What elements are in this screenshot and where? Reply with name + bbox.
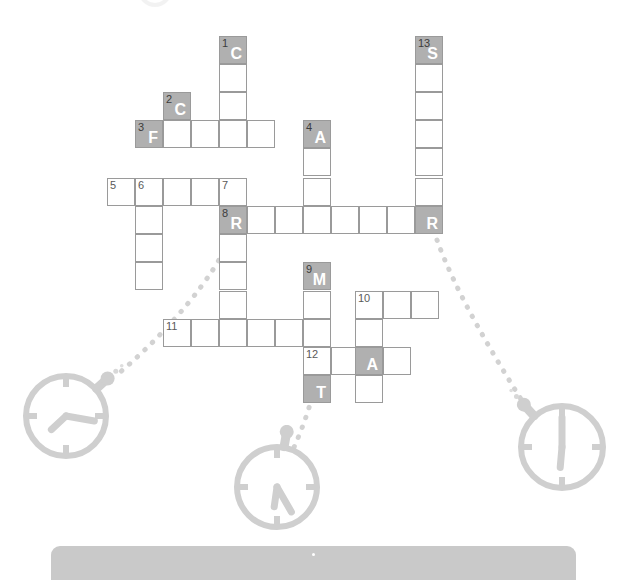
cell-letter: A [366, 356, 378, 373]
stopwatch-icon-center [215, 425, 339, 549]
crossword-cell-c3d[interactable] [219, 120, 247, 148]
crossword-cell-c12t[interactable]: T [303, 375, 331, 403]
cell-number: 5 [110, 179, 116, 191]
cell-number: 13 [418, 37, 430, 49]
cell-letter: R [230, 215, 242, 232]
crossword-cell-c7d[interactable] [219, 291, 247, 319]
cell-letter: T [316, 384, 326, 401]
crossword-cell-c8f[interactable] [359, 206, 387, 234]
crossword-cell-c9b[interactable] [303, 291, 331, 319]
crossword-cell-c5d[interactable] [191, 178, 219, 206]
crossword-cell-c11d[interactable] [247, 319, 275, 347]
cell-number: 2 [166, 93, 172, 105]
crossword-cell-c13b[interactable] [415, 64, 443, 92]
crossword-cell-c6b[interactable] [135, 206, 163, 234]
cell-letter: F [148, 129, 158, 146]
crossword-cell-c10d[interactable] [355, 375, 383, 403]
crossword-cell-c9[interactable]: 9M [303, 262, 331, 290]
crossword-cell-c8d[interactable] [303, 206, 331, 234]
stopwatch-icon-left [4, 354, 128, 478]
cell-number: 12 [306, 348, 318, 360]
crossword-cell-c7[interactable]: 7 [219, 178, 247, 206]
crossword-cell-c13[interactable]: 13S [415, 36, 443, 64]
crossword-cell-c11g[interactable] [355, 319, 383, 347]
crossword-cell-c4[interactable]: 4A [303, 120, 331, 148]
cell-number: 9 [306, 263, 312, 275]
cell-letter: C [174, 101, 186, 118]
crossword-cell-c10b[interactable] [383, 291, 411, 319]
crossword-cell-c3[interactable]: 3F [135, 120, 163, 148]
crossword-cell-c4b[interactable] [303, 148, 331, 176]
crossword-cell-c8g[interactable] [387, 206, 415, 234]
bottom-bar[interactable] [51, 546, 576, 580]
crossword-cell-c5[interactable]: 5 [107, 178, 135, 206]
cell-letter: R [426, 215, 438, 232]
crossword-cell-c8e[interactable] [331, 206, 359, 234]
cell-letter: S [427, 45, 438, 62]
cell-number: 1 [222, 37, 228, 49]
stopwatch-icon-top-partial [128, 0, 182, 18]
crossword-cell-c8b[interactable] [247, 206, 275, 234]
cell-number: 3 [138, 121, 144, 133]
crossword-cell-c6d[interactable] [135, 262, 163, 290]
crossword-cell-c3e[interactable] [247, 120, 275, 148]
crossword-cell-c11f[interactable] [303, 319, 331, 347]
cell-number: 10 [358, 292, 370, 304]
crossword-cell-c13e[interactable] [415, 148, 443, 176]
crossword-cell-c8c[interactable] [275, 206, 303, 234]
crossword-cell-c13c[interactable] [415, 92, 443, 120]
crossword-cell-c1[interactable]: 1C [219, 36, 247, 64]
cell-number: 7 [222, 179, 228, 191]
crossword-cell-c5c[interactable] [163, 178, 191, 206]
crossword-cell-c11b[interactable] [191, 319, 219, 347]
crossword-cell-c11e[interactable] [275, 319, 303, 347]
crossword-cell-c12c[interactable]: A [355, 347, 383, 375]
cell-letter: A [314, 129, 326, 146]
bottom-bar-dot [312, 553, 315, 556]
crossword-cell-c10c[interactable] [411, 291, 439, 319]
crossword-cell-c2[interactable]: 2C [163, 92, 191, 120]
crossword-cell-c11[interactable]: 11 [163, 319, 191, 347]
crossword-cell-c12d[interactable] [383, 347, 411, 375]
crossword-cell-c1b[interactable] [219, 64, 247, 92]
crossword-cell-c8h[interactable]: R [415, 206, 443, 234]
crossword-cell-c6[interactable]: 6 [135, 178, 163, 206]
stopwatch-icon-right [499, 384, 625, 510]
crossword-cell-c3c[interactable] [191, 120, 219, 148]
cell-number: 4 [306, 121, 312, 133]
crossword-cell-c12[interactable]: 12 [303, 347, 331, 375]
cell-number: 11 [166, 320, 177, 332]
crossword-cell-c10[interactable]: 10 [355, 291, 383, 319]
crossword-cell-c13f[interactable] [415, 178, 443, 206]
cell-letter: M [313, 271, 326, 288]
crossword-cell-c7b[interactable] [219, 234, 247, 262]
crossword-cell-c3b[interactable] [163, 120, 191, 148]
cell-number: 8 [222, 207, 228, 219]
crossword-cell-c6c[interactable] [135, 234, 163, 262]
cell-letter: C [230, 45, 242, 62]
crossword-cell-c11c[interactable] [219, 319, 247, 347]
crossword-cell-c7c[interactable] [219, 262, 247, 290]
crossword-cell-c8[interactable]: 8R [219, 206, 247, 234]
crossword-cell-c13d[interactable] [415, 120, 443, 148]
crossword-cell-c1c[interactable] [219, 92, 247, 120]
cell-number: 6 [138, 179, 144, 191]
crossword-cell-c4c[interactable] [303, 178, 331, 206]
